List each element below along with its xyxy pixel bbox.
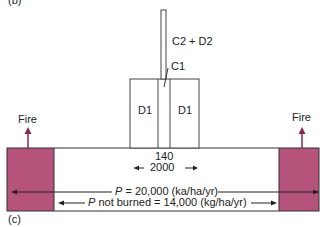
label-p-not-burned: P not burned = 14,000 (kg/ha/yr) <box>88 197 247 208</box>
label-d1-left: D1 <box>138 105 152 116</box>
c2-d2-stem <box>161 10 166 79</box>
label-d1-right: D1 <box>178 105 192 116</box>
label-fire-right: Fire <box>292 112 311 123</box>
fire-arrow-right-icon <box>299 127 306 148</box>
burned-area-left <box>7 148 54 211</box>
panel-label-c: (c) <box>8 214 21 225</box>
fire-arrow-left-icon <box>25 127 32 148</box>
label-width-2000: 2000 <box>150 162 174 173</box>
label-fire-left: Fire <box>18 114 37 125</box>
burned-area-right <box>279 148 319 211</box>
label-c1: C1 <box>171 61 185 72</box>
label-c2-d2: C2 + D2 <box>172 36 213 47</box>
